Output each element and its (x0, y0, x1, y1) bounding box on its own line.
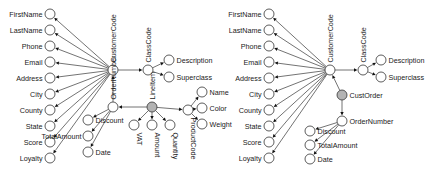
node-label-amount: Amount (153, 133, 162, 158)
node-vat[interactable] (129, 120, 139, 130)
arrowhead-customercode-to-loyalty (53, 150, 56, 154)
node-label-discount: Discount (96, 116, 124, 125)
node-r_address[interactable] (264, 73, 274, 83)
node-label-r_firstname: FirstName (228, 10, 261, 19)
edge-r_customercode-to-r_email (278, 63, 325, 69)
node-loyalty[interactable] (45, 153, 55, 163)
node-lineitem[interactable] (147, 102, 157, 112)
edge-r_customercode-to-r_loyalty (274, 74, 327, 150)
edge-customercode-to-lastname (58, 35, 109, 68)
node-quantity[interactable] (165, 120, 175, 130)
node-label-r_classcode: ClassCode (359, 27, 368, 62)
arrowhead-customercode-to-address (56, 75, 60, 78)
arrowhead-r_customercode-to-r_loyalty (272, 150, 275, 154)
arrowhead-customercode-to-classcode (139, 68, 142, 71)
node-label-r_score: Score (243, 138, 262, 147)
edge-r_custorder-to-r_customercode (334, 78, 340, 90)
node-city[interactable] (45, 89, 55, 99)
node-state[interactable] (45, 121, 55, 131)
node-firstname[interactable] (45, 9, 55, 19)
node-name[interactable] (197, 87, 207, 97)
node-r_score[interactable] (264, 137, 274, 147)
node-label-date: Date (96, 148, 111, 157)
node-label-r_superclass: Superclass (389, 73, 425, 82)
node-label-r_county: County (239, 106, 262, 115)
node-address[interactable] (45, 73, 55, 83)
node-r_loyalty[interactable] (264, 153, 274, 163)
edge-lineitem-to-quantity (156, 111, 164, 119)
node-label-county: County (20, 106, 43, 115)
edge-lineitem-to-vat (140, 111, 148, 119)
node-lastname[interactable] (45, 25, 55, 35)
node-color[interactable] (197, 103, 207, 113)
node-label-r_date: Date (318, 155, 333, 164)
node-label-r_discount: Discount (318, 127, 346, 136)
edge-productcode-to-name (191, 99, 196, 106)
edge-customercode-to-address (59, 71, 108, 77)
node-r_lastname[interactable] (264, 25, 274, 35)
arrowhead-classcode-to-superclass (160, 73, 164, 76)
node-county[interactable] (45, 105, 55, 115)
node-email[interactable] (45, 57, 55, 67)
node-label-r_customercode: CustomerCode (326, 14, 335, 62)
node-r_ordernumber[interactable] (337, 116, 347, 126)
arrowhead-customercode-to-email (56, 61, 60, 64)
node-label-r_custorder: CustOrder (350, 91, 384, 100)
node-r_county[interactable] (264, 105, 274, 115)
node-r_classcode[interactable] (358, 65, 368, 75)
node-label-state: State (26, 122, 43, 131)
edge-r_customercode-to-r_lastname (277, 35, 326, 67)
node-description[interactable] (164, 55, 174, 65)
node-superclass[interactable] (164, 72, 174, 82)
node-r_date[interactable] (305, 154, 315, 164)
edge-classcode-to-description (153, 64, 161, 68)
node-label-customercode: CustomerCode (109, 14, 118, 62)
node-r_email[interactable] (264, 57, 274, 67)
edge-customercode-to-email (59, 63, 108, 69)
node-label-email: Email (25, 58, 43, 67)
node-r_city[interactable] (264, 89, 274, 99)
arrowhead-r_customercode-to-r_lastname (274, 33, 278, 36)
node-totalamount[interactable] (83, 131, 93, 141)
node-r_description[interactable] (376, 55, 386, 65)
arrowhead-r_customercode-to-r_address (275, 75, 279, 78)
node-label-classcode: ClassCode (144, 27, 153, 62)
node-phone[interactable] (45, 41, 55, 51)
node-label-productcode: ProductCode (189, 118, 198, 160)
node-date[interactable] (83, 147, 93, 157)
node-label-lastname: LastName (10, 26, 43, 35)
node-label-name: Name (210, 88, 229, 97)
node-label-weight: Weight (210, 120, 232, 129)
node-label-r_city: City (249, 90, 262, 99)
node-r_phone[interactable] (264, 41, 274, 51)
node-label-city: City (30, 90, 43, 99)
arrowhead-lineitem-to-productcode (179, 108, 183, 111)
node-label-address: Address (16, 74, 43, 83)
node-label-r_state: State (245, 122, 262, 131)
node-productcode[interactable] (183, 105, 193, 115)
node-discount[interactable] (83, 115, 93, 125)
arrowhead-r_custorder-to-r_ordernumber (340, 112, 343, 115)
node-ordernumber[interactable] (108, 102, 118, 112)
node-r_custorder[interactable] (337, 90, 347, 100)
edge-r_customercode-to-r_firstname (276, 20, 327, 67)
node-label-loyalty: Loyalty (20, 154, 43, 163)
node-label-r_address: Address (235, 74, 262, 83)
node-label-r_email: Email (244, 58, 262, 67)
node-r_superclass[interactable] (376, 72, 386, 82)
node-r_discount[interactable] (305, 126, 315, 136)
arrowhead-lineitem-to-ordernumber (119, 105, 122, 108)
node-amount[interactable] (147, 120, 157, 130)
node-label-superclass: Superclass (177, 73, 213, 82)
node-r_firstname[interactable] (264, 9, 274, 19)
node-r_totalamount[interactable] (305, 140, 315, 150)
node-label-firstname: FirstName (9, 10, 42, 19)
arrowhead-lineitem-to-amount (150, 116, 153, 119)
node-r_customercode[interactable] (325, 65, 335, 75)
arrowhead-r_customercode-to-r_classcode (354, 68, 357, 71)
node-label-totalamount: TotalAmount (42, 132, 82, 141)
er-graph-svg: FirstNameLastNamePhoneEmailAddressCityCo… (0, 0, 439, 174)
node-label-ordernumber: OrderNumber (109, 55, 118, 100)
edge-r_customercode-to-r_address (278, 71, 325, 77)
node-r_state[interactable] (264, 121, 274, 131)
